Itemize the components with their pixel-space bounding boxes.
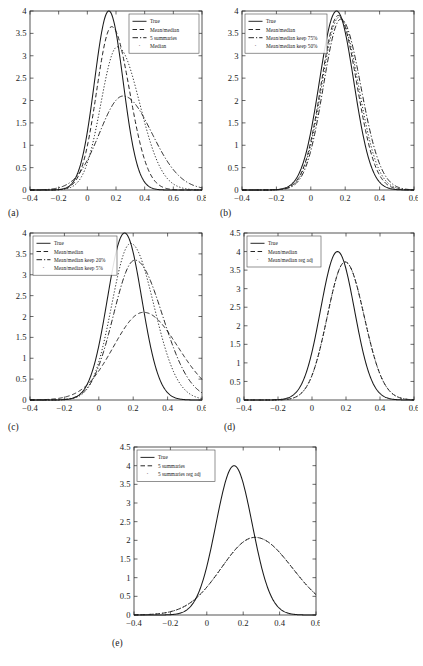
y-tick-label: 1.5 [228,118,239,128]
y-tick-label: 2 [234,96,238,106]
y-tick-label: 3 [236,284,240,294]
y-tick-label: 3 [234,51,238,61]
x-tick-label: −0.2 [57,403,73,413]
legend-label: Mean/median keep 5% [54,265,103,271]
y-tick-label: 1.5 [16,118,27,128]
legend-label: True [158,454,168,460]
panel-label-c: (c) [8,422,19,432]
x-tick-label: 0 [85,193,89,203]
series-curve [30,312,202,400]
y-tick-label: 4 [236,247,241,257]
legend-label: Mean/median keep 50% [266,43,318,49]
chart-panel-d: −0.4−0.200.20.40.600.511.522.533.544.5Tr… [218,228,418,416]
legend-label: True [54,240,64,246]
y-tick-label: 2 [236,321,240,331]
figure-container: −0.4−0.200.20.40.60.800.511.522.533.54Tr… [0,0,423,666]
series-curve [30,47,202,190]
y-tick-label: 2.5 [120,517,131,527]
chart-panel-b: −0.4−0.200.20.40.600.511.522.533.54TrueM… [218,6,418,206]
x-tick-label: 0.6 [409,193,418,203]
x-tick-label: 0 [205,618,209,628]
panel-label-b: (b) [220,208,231,218]
x-tick-label: 0.6 [311,618,320,628]
legend-label: 5 summaries [150,35,177,41]
panel-label-d: (d) [224,422,235,432]
x-tick-label: 0.2 [341,403,352,413]
y-tick-label: 1.5 [120,554,131,564]
x-tick-label: 0.6 [197,403,206,413]
series-curve [134,537,316,615]
x-tick-label: −0.2 [269,193,285,203]
y-tick-label: 4 [234,6,239,16]
y-tick-label: 3.5 [120,479,131,489]
x-tick-label: 0.4 [162,403,173,413]
series-curve [30,96,202,190]
x-tick-label: −0.2 [270,403,286,413]
y-tick-label: 3.5 [230,265,241,275]
panel-label-e: (e) [112,638,123,648]
series-curve [134,537,316,615]
x-tick-label: 0.6 [409,403,418,413]
y-tick-label: 0 [22,395,26,405]
legend-label: 5 summaries reg adj [158,471,201,477]
y-tick-label: 0.5 [120,591,131,601]
legend-marker: · [255,43,257,49]
y-tick-label: 1.5 [230,339,241,349]
series-curve [244,262,414,400]
y-tick-label: 0 [22,185,26,195]
y-tick-label: 0 [126,610,130,620]
y-tick-label: 1.5 [16,332,27,342]
x-tick-label: 0.4 [375,403,386,413]
x-tick-label: 0.2 [111,193,122,203]
chart-panel-a: −0.4−0.200.20.40.60.800.511.522.533.54Tr… [6,6,206,206]
chart-svg-b: −0.4−0.200.20.40.600.511.522.533.54TrueM… [218,6,418,206]
y-tick-label: 1 [22,140,26,150]
y-tick-label: 0.5 [228,163,239,173]
x-tick-label: 0.6 [168,193,179,203]
x-tick-label: −0.2 [163,618,179,628]
y-tick-label: 4.5 [120,442,131,452]
legend-label: Mean/median [268,249,297,255]
legend-label: True [266,18,276,24]
legend-label: True [150,18,160,24]
y-tick-label: 2.5 [228,73,239,83]
y-tick-label: 4 [22,6,27,16]
chart-svg-e: −0.4−0.200.20.40.600.511.522.533.544.5Tr… [108,442,320,632]
y-tick-label: 1 [234,140,238,150]
x-tick-label: 0 [309,193,313,203]
chart-panel-e: −0.4−0.200.20.40.600.511.522.533.544.5Tr… [108,442,320,632]
y-tick-label: 3.5 [16,249,27,259]
y-tick-label: 0 [236,395,240,405]
y-tick-label: 2.5 [16,73,27,83]
x-tick-label: 0.2 [128,403,139,413]
y-tick-label: 1 [22,353,26,363]
y-tick-label: 1 [236,358,240,368]
y-tick-label: 2.5 [230,302,241,312]
legend-label: Mean/median keep 75% [266,35,318,41]
y-tick-label: 2 [22,312,26,322]
legend-label: Mean/median [150,27,179,33]
legend-label: Median [150,43,167,49]
x-tick-label: 0.4 [139,193,150,203]
legend-marker: · [43,265,45,271]
x-tick-label: 0.2 [238,618,249,628]
x-tick-label: 0.2 [340,193,351,203]
x-tick-label: −0.2 [51,193,67,203]
y-tick-label: 2.5 [16,291,27,301]
chart-svg-c: −0.4−0.200.20.40.600.511.522.533.54TrueM… [6,228,206,416]
y-tick-label: 3 [22,51,26,61]
y-tick-label: 3 [22,270,26,280]
y-tick-label: 2 [22,96,26,106]
y-tick-label: 1 [126,573,130,583]
y-tick-label: 0.5 [16,163,27,173]
legend-label: Mean/median keep 20% [54,257,106,263]
legend-marker: · [257,257,259,263]
chart-svg-a: −0.4−0.200.20.40.60.800.511.522.533.54Tr… [6,6,206,206]
y-tick-label: 3.5 [16,28,27,38]
y-tick-label: 3.5 [228,28,239,38]
y-tick-label: 0.5 [230,377,241,387]
x-tick-label: 0 [97,403,101,413]
x-tick-label: 0.4 [274,618,285,628]
y-tick-label: 4 [22,228,27,238]
x-tick-label: 0.4 [374,193,385,203]
